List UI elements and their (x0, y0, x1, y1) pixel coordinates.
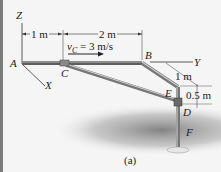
point-label-b: B (145, 50, 152, 61)
dim-label-ed: 0.5 m (186, 90, 211, 101)
velocity-subscript: C (72, 46, 77, 55)
rod-b-bend (142, 63, 178, 87)
ground-shadow (40, 104, 221, 156)
velocity-label: vC = 3 m/s (67, 41, 113, 55)
figure-caption: (a) (124, 155, 136, 166)
dim-label-ac: 1 m (30, 29, 49, 40)
point-label-c: C (61, 68, 68, 79)
dim-label-b-offset: 1 m (175, 71, 192, 82)
dim-arrow-c2 (64, 33, 68, 36)
dim-label-cb: 2 m (98, 29, 117, 40)
point-label-a: A (10, 58, 17, 69)
point-label-f: F (186, 127, 193, 138)
mechanics-figure: Z A X C B Y E D F 1 m 2 m 1 m 0.5 m vC =… (0, 0, 221, 172)
axis-label-y: Y (194, 57, 200, 68)
dim-arrow-a (22, 33, 26, 36)
collar-d (174, 98, 182, 106)
x-axis (22, 64, 45, 86)
diagram-drawing (0, 0, 221, 172)
axis-label-z: Z (16, 10, 22, 21)
velocity-value: = 3 m/s (80, 40, 113, 52)
point-label-e: E (165, 88, 172, 99)
point-label-d: D (183, 107, 191, 118)
axis-label-x: X (45, 80, 52, 91)
dim-arrow-b (138, 33, 142, 36)
rod-ce-hl (66, 64, 175, 99)
rod-b-bend-hl (142, 62, 178, 86)
collar-c (60, 60, 69, 66)
rod-ce (66, 65, 175, 100)
dim-arrow-c1 (58, 33, 62, 36)
base-plate-f (167, 147, 189, 153)
